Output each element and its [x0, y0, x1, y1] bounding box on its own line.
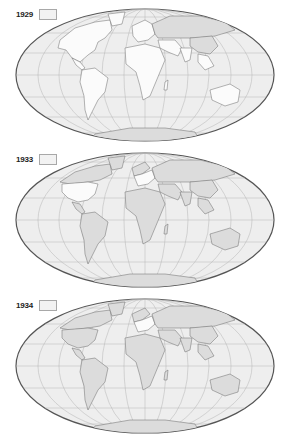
map-panel-1929: 1929: [0, 0, 285, 146]
world-map-1929: [0, 0, 285, 146]
map-panel-1934: 1934: [0, 292, 285, 438]
map-panel-1933: 1933: [0, 146, 285, 292]
world-map-1933: [0, 146, 285, 292]
world-map-1934: [0, 292, 285, 438]
